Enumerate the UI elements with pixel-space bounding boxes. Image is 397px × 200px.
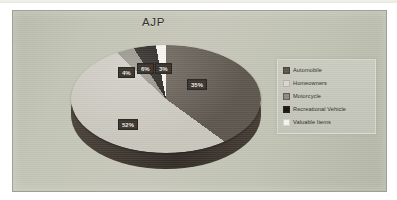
chart-panel: AJP 35% 52% 4% 6% 3% Automobile [12, 10, 387, 192]
screenshot-root: AJP 35% 52% 4% 6% 3% Automobile [0, 0, 397, 200]
legend-item-motorcycle[interactable]: Motorcycle [283, 92, 371, 100]
chart-legend: Automobile Homeowners Motorcycle Recreat… [277, 59, 376, 134]
legend-item-homeowners[interactable]: Homeowners [283, 79, 371, 87]
slice-label-valuable-items: 3% [155, 63, 172, 74]
pie-top-face [71, 45, 261, 153]
slice-label-automobile: 35% [187, 79, 207, 90]
pie-chart: 35% 52% 4% 6% 3% [71, 39, 261, 184]
slice-label-homeowners: 52% [118, 119, 138, 130]
legend-item-label: Recreational Vehicle [293, 106, 346, 112]
legend-item-valuable-items[interactable]: Valuable Items [283, 118, 371, 126]
legend-swatch-icon [283, 106, 290, 113]
legend-item-recreational-vehicle[interactable]: Recreational Vehicle [283, 105, 371, 113]
slice-label-recreational-vehicle: 6% [137, 63, 154, 74]
legend-item-label: Homeowners [293, 80, 327, 86]
legend-swatch-icon [283, 119, 290, 126]
legend-item-label: Automobile [293, 67, 322, 73]
legend-item-label: Valuable Items [293, 119, 331, 125]
legend-item-automobile[interactable]: Automobile [283, 66, 371, 74]
legend-item-label: Motorcycle [293, 93, 321, 99]
legend-swatch-icon [283, 80, 290, 87]
legend-swatch-icon [283, 67, 290, 74]
slice-label-motorcycle: 4% [118, 67, 135, 78]
chart-title: AJP [13, 16, 386, 28]
pie-slices [71, 45, 261, 153]
top-divider [0, 0, 397, 3]
legend-swatch-icon [283, 93, 290, 100]
